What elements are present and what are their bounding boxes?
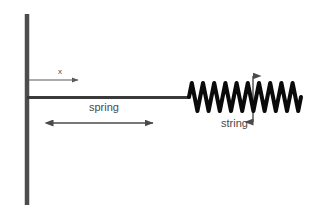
string-label: string <box>221 118 248 129</box>
spring-label: spring <box>89 102 119 113</box>
string-wave <box>189 83 301 111</box>
physics-diagram-canvas: x spring string <box>0 0 310 218</box>
diagram-vector-layer <box>0 0 310 218</box>
x-axis-label: x <box>58 68 62 76</box>
